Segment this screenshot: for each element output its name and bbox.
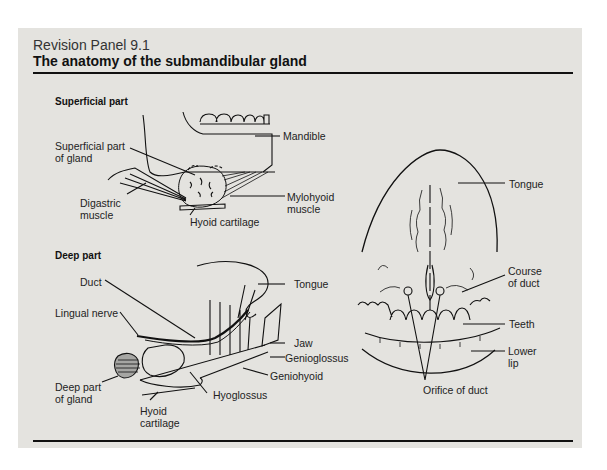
label-mylohyoid-muscle: Mylohyoid muscle bbox=[287, 191, 334, 215]
superficial-part-drawing bbox=[108, 112, 285, 215]
label-teeth: Teeth bbox=[509, 318, 535, 330]
label-lower-lip: Lower lip bbox=[508, 345, 537, 369]
label-orifice-of-duct: Orifice of duct bbox=[423, 384, 488, 396]
label-hyoid-cartilage-superficial: Hyoid cartilage bbox=[190, 216, 259, 228]
label-lingual-nerve: Lingual nerve bbox=[55, 307, 118, 319]
label-digastric-muscle: Digastric muscle bbox=[80, 197, 121, 221]
label-superficial-part-of-gland: Superficial part of gland bbox=[55, 140, 125, 164]
label-duct: Duct bbox=[80, 276, 102, 288]
label-course-of-duct: Course of duct bbox=[508, 265, 542, 289]
label-jaw: Jaw bbox=[294, 337, 313, 349]
label-mandible: Mandible bbox=[283, 130, 326, 142]
bottom-divider bbox=[33, 440, 573, 442]
deep-part-drawing bbox=[102, 262, 285, 400]
label-deep-part-of-gland: Deep part of gland bbox=[55, 381, 101, 405]
label-geniohyoid: Geniohyoid bbox=[270, 370, 323, 382]
label-hyoid-cartilage-deep: Hyoid cartilage bbox=[140, 405, 180, 429]
label-tongue-deep: Tongue bbox=[294, 278, 328, 290]
label-hyoglossus: Hyoglossus bbox=[213, 389, 267, 401]
label-tongue-oral: Tongue bbox=[509, 178, 543, 190]
label-genioglossus: Genioglossus bbox=[285, 352, 349, 364]
oral-view-drawing bbox=[358, 150, 505, 380]
